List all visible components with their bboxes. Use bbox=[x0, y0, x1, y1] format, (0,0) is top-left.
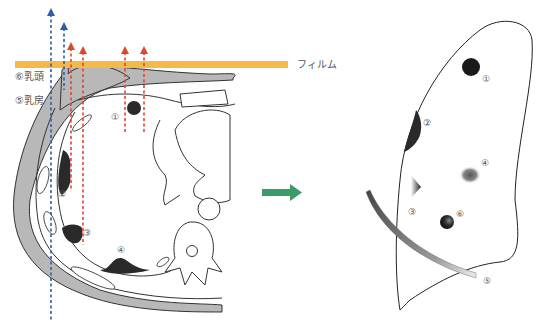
lesion-1 bbox=[127, 101, 141, 115]
marker-5-right: ⑤ bbox=[483, 276, 491, 286]
film-bar bbox=[15, 61, 288, 68]
marker-1-right: ① bbox=[482, 74, 490, 84]
film-label: フィルム bbox=[297, 59, 337, 70]
green-arrow-icon bbox=[262, 184, 302, 201]
lesion-3 bbox=[62, 225, 83, 244]
marker-3-right: ③ bbox=[408, 207, 416, 217]
lesion-4 bbox=[100, 258, 150, 274]
marker-4-left: ④ bbox=[117, 245, 125, 255]
breast-label: ⑤乳房 bbox=[15, 94, 44, 106]
diagram-canvas: フィルム ⑥乳頭 ⑤乳房 ① ② ③ ④ bbox=[0, 0, 537, 328]
nipple-label: ⑥乳頭 bbox=[15, 70, 44, 82]
marker-3-left: ③ bbox=[83, 228, 91, 238]
marker-2-left: ② bbox=[58, 189, 66, 199]
marker-6-right: ⑥ bbox=[456, 209, 464, 219]
lung-frontal-view bbox=[366, 21, 532, 310]
marker-1-left: ① bbox=[111, 112, 119, 122]
marker-4-right: ④ bbox=[481, 158, 489, 168]
beam-arrowheads bbox=[47, 8, 148, 54]
marker-2-right: ② bbox=[423, 118, 431, 128]
